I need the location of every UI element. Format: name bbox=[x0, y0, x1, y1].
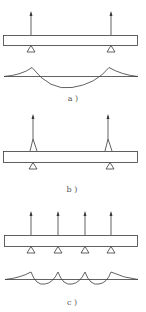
beam-diagram-figure: a ) b ) c ) bbox=[0, 0, 146, 312]
beam bbox=[4, 36, 138, 46]
support-triangle-icon bbox=[27, 46, 35, 53]
panel-a: a ) bbox=[4, 11, 139, 103]
support-triangle-icon bbox=[81, 247, 89, 254]
panel-label-c: c ) bbox=[67, 298, 77, 307]
arrowhead-icon bbox=[110, 211, 113, 216]
panel-label-a: a ) bbox=[68, 94, 78, 103]
support-triangle-icon bbox=[54, 247, 62, 254]
support-triangle-icon bbox=[29, 163, 37, 170]
panel-label-b: b ) bbox=[67, 185, 78, 194]
arrowhead-icon bbox=[110, 11, 113, 16]
arrowhead-icon bbox=[30, 11, 33, 16]
moment-curve bbox=[5, 272, 138, 284]
moment-curve bbox=[4, 68, 138, 88]
support-triangle-icon bbox=[107, 46, 115, 53]
arrowhead-icon bbox=[32, 114, 35, 119]
arrowhead-icon bbox=[30, 211, 33, 216]
support-triangle-icon bbox=[27, 247, 35, 254]
flared-force-spread bbox=[105, 139, 112, 151]
support-triangle-icon bbox=[106, 163, 114, 170]
panel-b: b ) bbox=[4, 114, 138, 194]
beam bbox=[5, 236, 138, 247]
support-triangle-icon bbox=[107, 247, 115, 254]
arrowhead-icon bbox=[57, 211, 60, 216]
panel-c: c ) bbox=[5, 211, 139, 307]
flared-force-spread bbox=[30, 139, 37, 151]
arrowhead-icon bbox=[84, 211, 87, 216]
arrowhead-icon bbox=[107, 114, 110, 119]
beam bbox=[4, 152, 138, 163]
